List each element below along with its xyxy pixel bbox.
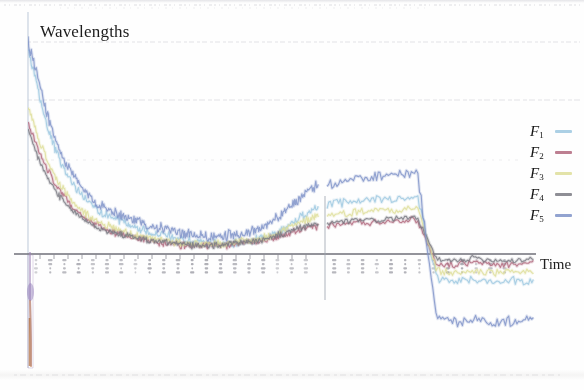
axes — [14, 12, 536, 368]
x-tick-label — [418, 259, 422, 274]
x-tick-label — [204, 259, 208, 274]
legend-label: F4 — [530, 186, 550, 203]
x-tick-label — [34, 259, 38, 274]
x-tick-label — [261, 259, 266, 274]
legend-item-f5[interactable]: F5 — [530, 206, 572, 224]
x-tick-label — [76, 259, 81, 274]
series-f3 — [28, 108, 533, 277]
series-f4 — [28, 129, 533, 263]
x-tick-label — [105, 259, 109, 274]
x-tick-label — [332, 259, 337, 274]
x-tick-label — [346, 259, 350, 274]
x-tick-label — [218, 259, 223, 274]
legend-color-swatch — [555, 151, 572, 154]
x-axis-label: Time — [540, 256, 571, 273]
legend-item-f3[interactable]: F3 — [530, 164, 572, 182]
series-f1 — [28, 50, 533, 285]
x-axis-ticks — [40, 254, 306, 259]
legend-color-swatch — [555, 214, 572, 217]
x-tick-label — [176, 259, 181, 274]
x-tick-label — [134, 259, 138, 274]
x-tick-label — [119, 259, 124, 274]
legend-item-f2[interactable]: F2 — [530, 143, 572, 161]
page-title: Wavelengths — [40, 22, 130, 42]
series-traces — [28, 36, 533, 326]
legend-item-f4[interactable]: F4 — [530, 185, 572, 203]
series-f2 — [28, 122, 533, 268]
legend-label: F2 — [530, 144, 550, 161]
scan-artifact-band — [4, 5, 580, 8]
x-tick-label — [276, 259, 280, 274]
x-tick-label — [91, 259, 95, 274]
x-tick-label — [190, 259, 194, 274]
x-tick-label — [304, 259, 309, 274]
x-tick-label — [233, 259, 238, 274]
x-tick-label — [389, 259, 393, 274]
x-tick-label — [247, 259, 251, 274]
legend-color-swatch — [555, 130, 572, 133]
legend: F1F2F3F4F5 — [530, 122, 572, 224]
x-tick-label — [375, 259, 379, 274]
x-tick-label — [62, 259, 66, 274]
x-tick-label — [289, 259, 294, 274]
legend-label: F5 — [530, 207, 550, 224]
x-tick-label — [162, 259, 166, 274]
chart-plot-area — [0, 0, 584, 390]
x-tick-label — [48, 259, 53, 274]
legend-label: F1 — [530, 123, 550, 140]
legend-label: F3 — [530, 165, 550, 182]
chart-figure: Wavelengths Time F1F2F3F4F5 — [0, 0, 584, 390]
x-tick-label — [361, 259, 365, 274]
left-edge-spike — [27, 252, 34, 368]
x-tick-label — [147, 259, 151, 274]
legend-color-swatch — [555, 193, 572, 196]
x-tick-label — [403, 259, 407, 274]
legend-item-f1[interactable]: F1 — [530, 122, 572, 140]
legend-color-swatch — [555, 172, 572, 175]
